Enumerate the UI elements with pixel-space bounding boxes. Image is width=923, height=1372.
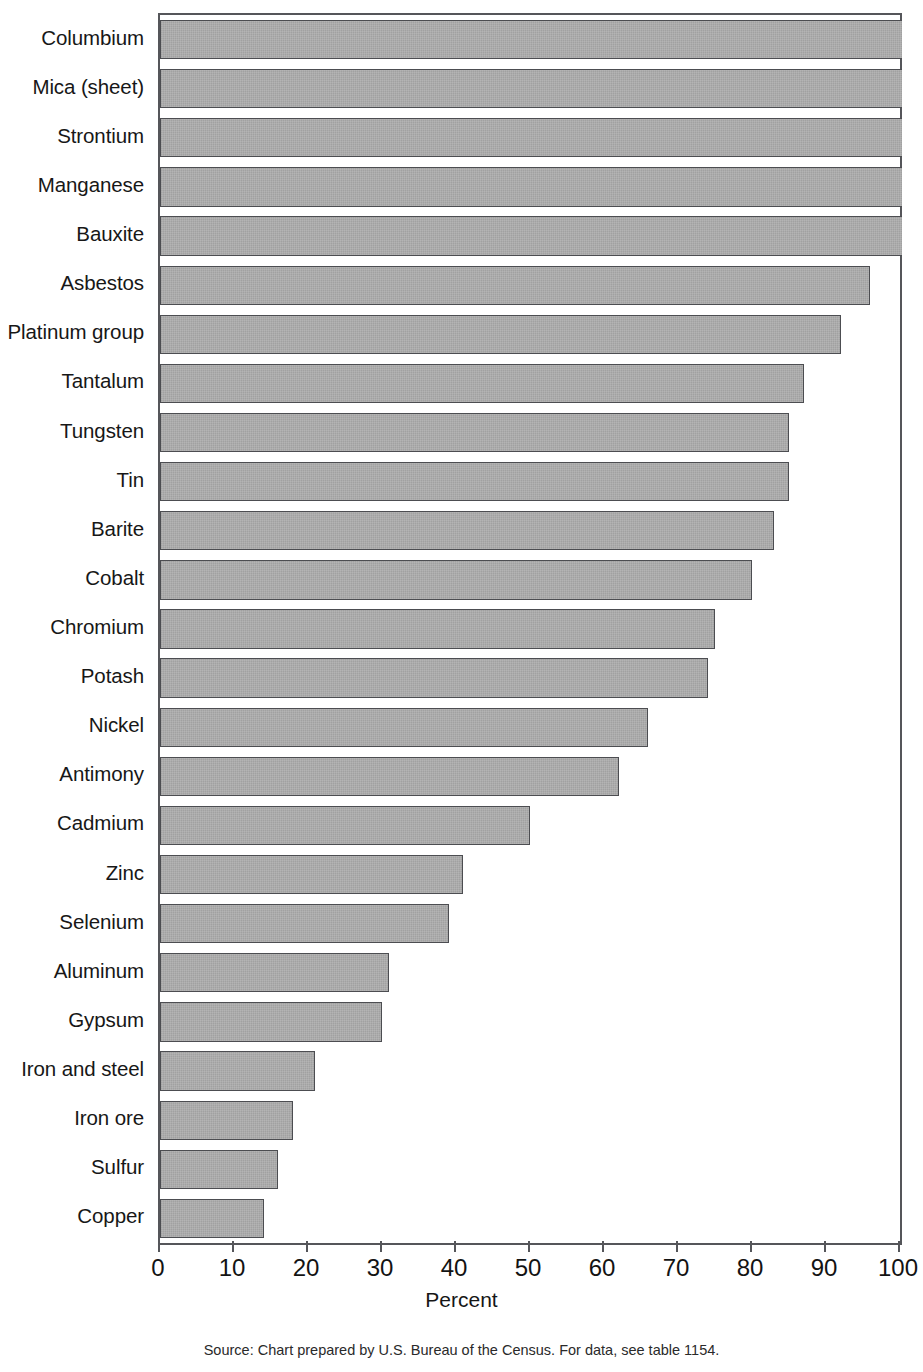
x-axis-tick <box>454 1241 456 1252</box>
bar <box>160 266 870 305</box>
x-axis-tick <box>158 1241 160 1252</box>
category-label: Columbium <box>41 28 144 49</box>
category-label: Cobalt <box>85 568 144 589</box>
category-label: Platinum group <box>8 322 145 343</box>
x-axis-tick <box>232 1241 234 1252</box>
x-axis-tick-label: 40 <box>441 1254 468 1282</box>
bar <box>160 20 902 59</box>
x-axis-tick <box>898 1241 900 1252</box>
category-label: Tin <box>117 470 144 491</box>
bar <box>160 1101 293 1140</box>
bar <box>160 1002 382 1041</box>
x-axis-tick <box>824 1241 826 1252</box>
category-label: Zinc <box>106 863 144 884</box>
x-axis-tick-label: 90 <box>811 1254 838 1282</box>
category-label: Nickel <box>89 715 144 736</box>
bar <box>160 118 902 157</box>
x-axis-tick <box>676 1241 678 1252</box>
bar <box>160 904 449 943</box>
category-label: Iron ore <box>74 1108 144 1129</box>
x-axis-title: Percent <box>0 1288 923 1312</box>
category-label: Antimony <box>59 764 144 785</box>
bar <box>160 708 648 747</box>
chart-body: ColumbiumMica (sheet)StrontiumManganeseB… <box>0 13 923 1241</box>
category-label: Aluminum <box>54 961 144 982</box>
x-axis-tick <box>380 1241 382 1252</box>
bar <box>160 1199 264 1238</box>
x-axis-tick-label: 10 <box>219 1254 246 1282</box>
bar <box>160 462 789 501</box>
bar <box>160 609 715 648</box>
category-label: Copper <box>77 1206 144 1227</box>
category-axis-labels: ColumbiumMica (sheet)StrontiumManganeseB… <box>0 13 152 1241</box>
x-axis-tick-label: 50 <box>515 1254 542 1282</box>
category-label: Cadmium <box>57 813 144 834</box>
x-axis-tick <box>528 1241 530 1252</box>
bar <box>160 560 752 599</box>
bar <box>160 757 619 796</box>
category-label: Tantalum <box>62 371 144 392</box>
plot-area <box>158 13 902 1245</box>
x-axis-tick-label: 70 <box>663 1254 690 1282</box>
bar <box>160 658 708 697</box>
bar <box>160 315 841 354</box>
bar <box>160 413 789 452</box>
x-axis: 0102030405060708090100 <box>158 1241 898 1242</box>
category-label: Chromium <box>50 617 144 638</box>
category-label: Asbestos <box>60 273 144 294</box>
source-note: Source: Chart prepared by U.S. Bureau of… <box>0 1342 923 1358</box>
x-axis-tick-label: 60 <box>589 1254 616 1282</box>
category-label: Barite <box>91 519 144 540</box>
category-label: Mica (sheet) <box>32 77 144 98</box>
bar <box>160 69 902 108</box>
bar <box>160 364 804 403</box>
category-label: Strontium <box>57 126 144 147</box>
bar <box>160 1051 315 1090</box>
bar <box>160 806 530 845</box>
category-label: Tungsten <box>60 421 144 442</box>
bar <box>160 167 902 206</box>
x-axis-tick <box>306 1241 308 1252</box>
x-axis-tick <box>602 1241 604 1252</box>
x-axis-tick-label: 20 <box>293 1254 320 1282</box>
bar-chart-figure: ColumbiumMica (sheet)StrontiumManganeseB… <box>0 0 923 1372</box>
x-axis-tick-label: 30 <box>367 1254 394 1282</box>
x-axis-tick-label: 0 <box>151 1254 164 1282</box>
bar <box>160 216 902 255</box>
category-label: Potash <box>81 666 144 687</box>
category-label: Manganese <box>38 175 144 196</box>
bar <box>160 855 463 894</box>
category-label: Bauxite <box>76 224 144 245</box>
category-label: Selenium <box>59 912 144 933</box>
x-axis-tick <box>750 1241 752 1252</box>
bar <box>160 511 774 550</box>
category-label: Sulfur <box>91 1157 144 1178</box>
category-label: Iron and steel <box>21 1059 144 1080</box>
category-label: Gypsum <box>68 1010 144 1031</box>
bar <box>160 953 389 992</box>
x-axis-tick-label: 100 <box>878 1254 918 1282</box>
x-axis-tick-label: 80 <box>737 1254 764 1282</box>
bar <box>160 1150 278 1189</box>
